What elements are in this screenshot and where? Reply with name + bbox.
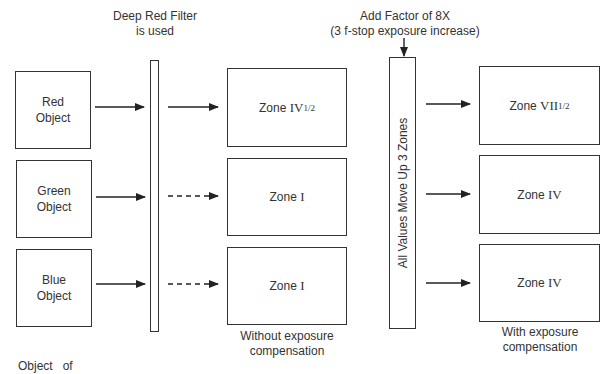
arrows-layer bbox=[0, 0, 615, 368]
